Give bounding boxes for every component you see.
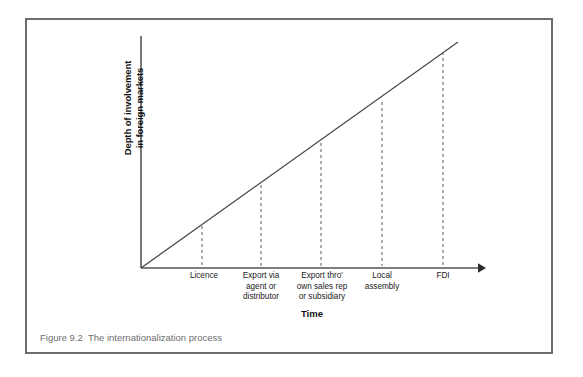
y-axis-title: Depth of involvement in foreign markets (122, 28, 146, 188)
y-axis-title-line-1: Depth of involvement (122, 28, 134, 188)
x-tick-label-export-own-sales-rep-line-3: or subsidiary (282, 292, 362, 303)
x-tick-label-fdi-line-1: FDI (403, 271, 483, 282)
figure-root: Depth of involvement in foreign markets … (0, 0, 583, 377)
x-tick-label-fdi: FDI (403, 271, 483, 282)
figure-caption: Figure 9.2 The internationalization proc… (40, 332, 222, 343)
figure-border-frame (25, 18, 553, 354)
x-axis-title: Time (282, 308, 342, 319)
y-axis-title-line-2: in foreign markets (134, 28, 146, 188)
x-tick-label-local-assembly-line-2: assembly (342, 282, 422, 293)
